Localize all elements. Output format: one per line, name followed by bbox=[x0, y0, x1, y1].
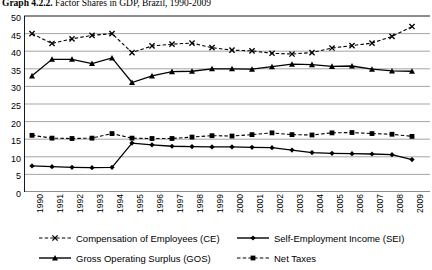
data-point bbox=[190, 135, 195, 140]
x-axis-tick-label: 1995 bbox=[136, 194, 145, 213]
x-axis-tick-label: 2007 bbox=[376, 194, 385, 213]
data-point bbox=[70, 136, 75, 141]
data-point bbox=[349, 151, 354, 156]
plot-svg bbox=[24, 14, 430, 192]
data-point bbox=[289, 148, 294, 153]
data-point bbox=[89, 165, 94, 170]
x-axis-tick-label: 2000 bbox=[236, 194, 245, 213]
data-point bbox=[330, 130, 335, 135]
data-point bbox=[209, 144, 214, 149]
legend-item-sei[interactable]: Self-Employment Income (SEI) bbox=[236, 232, 404, 244]
x-axis-tick-label: 1990 bbox=[36, 194, 45, 213]
x-axis-tick-label: 1999 bbox=[216, 194, 225, 213]
chart-title-number: Graph 4.2.2. bbox=[2, 0, 53, 8]
x-axis-tick-label: 1994 bbox=[116, 194, 125, 213]
x-axis-tick-label: 1996 bbox=[156, 194, 165, 213]
legend-label: Net Taxes bbox=[274, 253, 316, 264]
series-sei bbox=[29, 140, 414, 170]
data-point bbox=[369, 41, 374, 46]
x-axis-tick-label: 2004 bbox=[316, 194, 325, 213]
data-point bbox=[150, 136, 155, 141]
series-ce bbox=[29, 24, 414, 57]
data-point bbox=[250, 132, 255, 137]
data-point bbox=[230, 134, 235, 139]
data-point bbox=[390, 132, 395, 137]
x-axis-tick-label: 1998 bbox=[196, 194, 205, 213]
data-point bbox=[290, 132, 295, 137]
legend-item-gos[interactable]: Gross Operating Surplus (GOS) bbox=[38, 252, 211, 264]
y-axis-tick-label: 50 bbox=[11, 14, 21, 23]
y-axis-tick-label: 0 bbox=[16, 190, 21, 199]
data-point bbox=[189, 144, 194, 149]
data-point bbox=[409, 157, 414, 162]
data-point bbox=[110, 131, 115, 136]
legend-label: Compensation of Employees (CE) bbox=[76, 233, 220, 244]
legend-symbol-square-icon bbox=[236, 252, 270, 264]
x-axis-tick-label: 2003 bbox=[296, 194, 305, 213]
y-axis-tick-label: 35 bbox=[11, 66, 21, 75]
x-axis-tick-label: 2002 bbox=[276, 194, 285, 213]
legend-item-nettax[interactable]: Net Taxes bbox=[236, 252, 316, 264]
y-axis-tick-label: 10 bbox=[11, 154, 21, 163]
data-point bbox=[269, 145, 274, 150]
data-point bbox=[169, 144, 174, 149]
data-point bbox=[370, 131, 375, 136]
legend-label: Gross Operating Surplus (GOS) bbox=[76, 253, 211, 264]
data-point bbox=[229, 144, 234, 149]
data-point bbox=[30, 133, 35, 138]
data-point bbox=[270, 130, 275, 135]
chart-title-text: Factor Shares in GDP, Brazil, 1990-2009 bbox=[55, 0, 211, 8]
legend-symbol-triangle-icon bbox=[38, 252, 72, 264]
y-axis-tick-label: 40 bbox=[11, 49, 21, 58]
legend-label: Self-Employment Income (SEI) bbox=[274, 233, 404, 244]
y-axis-tick-label: 15 bbox=[11, 137, 21, 146]
data-point bbox=[90, 136, 95, 141]
x-axis-tick-label: 2009 bbox=[416, 194, 425, 213]
data-point bbox=[369, 151, 374, 156]
data-point bbox=[170, 136, 175, 141]
data-point bbox=[309, 150, 314, 155]
legend-item-ce[interactable]: Compensation of Employees (CE) bbox=[38, 232, 220, 244]
data-point bbox=[409, 24, 414, 29]
y-axis-tick-label: 30 bbox=[11, 84, 21, 93]
x-axis-tick-label: 1993 bbox=[96, 194, 105, 213]
data-point bbox=[410, 134, 415, 139]
y-axis-labels: 05101520253035404550 bbox=[0, 14, 24, 192]
data-point bbox=[129, 50, 134, 55]
x-axis-tick-label: 1991 bbox=[56, 194, 65, 213]
x-axis-tick-label: 2006 bbox=[356, 194, 365, 213]
x-axis-labels: 1990199119921993199419951996199719981999… bbox=[24, 194, 430, 230]
data-point bbox=[310, 133, 315, 138]
y-axis-tick-label: 45 bbox=[11, 31, 21, 40]
data-point bbox=[50, 136, 55, 141]
y-axis-tick-label: 20 bbox=[11, 119, 21, 128]
data-point bbox=[329, 151, 334, 156]
data-point bbox=[229, 48, 234, 53]
chart-container: Graph 4.2.2. Factor Shares in GDP, Brazi… bbox=[0, 0, 432, 270]
data-point bbox=[249, 145, 254, 150]
data-point bbox=[49, 164, 54, 169]
y-axis-tick-label: 5 bbox=[16, 172, 21, 181]
data-point bbox=[389, 34, 394, 39]
data-point bbox=[149, 142, 154, 147]
data-point bbox=[109, 55, 115, 61]
chart-legend: Compensation of Employees (CE)Self-Emplo… bbox=[0, 230, 432, 270]
x-axis-tick-label: 2005 bbox=[336, 194, 345, 213]
legend-symbol-x-icon bbox=[38, 232, 72, 244]
legend-symbol-diamond-icon bbox=[236, 232, 270, 244]
plot-area bbox=[24, 14, 430, 192]
data-point bbox=[29, 163, 34, 168]
data-point bbox=[69, 165, 74, 170]
x-axis-tick-label: 1997 bbox=[176, 194, 185, 213]
x-axis-tick-label: 1992 bbox=[76, 194, 85, 213]
data-point bbox=[210, 133, 215, 138]
x-axis-tick-label: 2001 bbox=[256, 194, 265, 213]
data-point bbox=[350, 130, 355, 135]
chart-title: Graph 4.2.2. Factor Shares in GDP, Brazi… bbox=[2, 0, 430, 11]
grid-lines bbox=[24, 16, 430, 192]
data-point bbox=[130, 136, 135, 141]
series-gos bbox=[29, 55, 415, 85]
x-axis-tick-label: 2008 bbox=[396, 194, 405, 213]
y-axis-tick-label: 25 bbox=[11, 102, 21, 111]
